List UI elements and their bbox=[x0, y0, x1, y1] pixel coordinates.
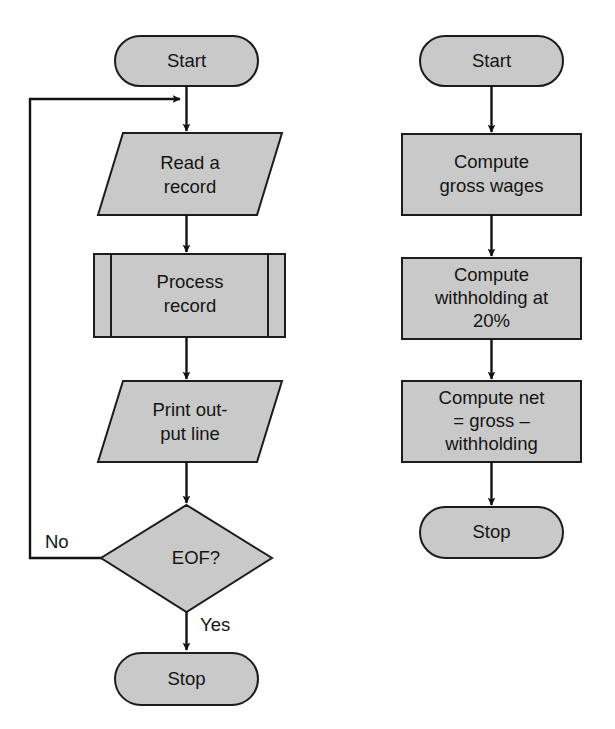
right-node-net-label-line1: Compute net bbox=[439, 387, 545, 408]
right-node-withholding-label-line1: Compute bbox=[454, 264, 529, 285]
left-node-start-label: Start bbox=[167, 50, 206, 71]
left-node-read-label-line2: record bbox=[164, 176, 216, 197]
left-node-read-label-line1: Read a bbox=[160, 152, 220, 173]
left-node-print-label-line2: put line bbox=[160, 423, 220, 444]
right-node-stop-label: Stop bbox=[472, 521, 510, 542]
right-node-withholding-label-line2: withholding at bbox=[434, 287, 548, 308]
right-node-gross-label-line2: gross wages bbox=[440, 175, 544, 196]
flowchart-figure: Start Read a record Process record Print… bbox=[0, 0, 615, 729]
flowchart-canvas: Start Read a record Process record Print… bbox=[0, 0, 615, 729]
right-node-gross-label-line1: Compute bbox=[454, 151, 529, 172]
right-node-net-label-line2: = gross – bbox=[453, 410, 530, 431]
edge-label-no: No bbox=[45, 531, 69, 552]
right-node-withholding-label-line3: 20% bbox=[473, 310, 510, 331]
left-node-print-label-line1: Print out- bbox=[152, 399, 227, 420]
left-node-process-label-line1: Process bbox=[157, 271, 224, 292]
left-node-stop-label: Stop bbox=[167, 668, 205, 689]
left-node-read-shape bbox=[98, 133, 282, 215]
left-node-decision-label: EOF? bbox=[172, 547, 220, 568]
right-node-start-label: Start bbox=[472, 50, 511, 71]
left-node-print-shape bbox=[98, 381, 282, 462]
left-node-process-label-line2: record bbox=[164, 295, 216, 316]
right-node-net-label-line3: withholding bbox=[444, 433, 538, 454]
edge-label-yes: Yes bbox=[200, 614, 230, 635]
